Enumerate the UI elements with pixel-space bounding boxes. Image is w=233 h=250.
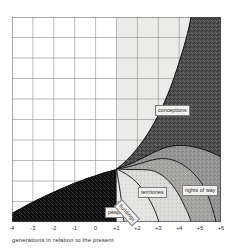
x-axis-tick-row: -4-3-2-10+1+2+3+4+5+6 bbox=[12, 224, 221, 235]
x-tick-label: -1 bbox=[67, 224, 83, 233]
figure-container: conceptions territories rights of way pe… bbox=[0, 0, 233, 250]
x-tick-label: -3 bbox=[25, 224, 41, 233]
x-tick-label: -2 bbox=[46, 224, 62, 233]
x-tick-label: +2 bbox=[129, 224, 145, 233]
x-tick-label: +5 bbox=[192, 224, 208, 233]
x-tick-label: +6 bbox=[213, 224, 229, 233]
axis-area: -4-3-2-10+1+2+3+4+5+6 generations in rel… bbox=[0, 222, 233, 250]
x-axis-caption: generations in relation to the present bbox=[12, 236, 114, 245]
plot-area: conceptions territories rights of way pe… bbox=[12, 17, 221, 222]
region-label-conceptions: conceptions bbox=[155, 105, 190, 116]
region-label-rights-of-way: rights of way bbox=[182, 185, 218, 196]
x-tick-label: +3 bbox=[150, 224, 166, 233]
x-tick-label: 0 bbox=[88, 224, 104, 233]
region-label-territories: territories bbox=[138, 187, 167, 198]
x-tick-label: +4 bbox=[171, 224, 187, 233]
x-tick-label: -4 bbox=[4, 224, 20, 233]
x-tick-label: +1 bbox=[109, 224, 125, 233]
region-past-fill bbox=[12, 169, 117, 222]
